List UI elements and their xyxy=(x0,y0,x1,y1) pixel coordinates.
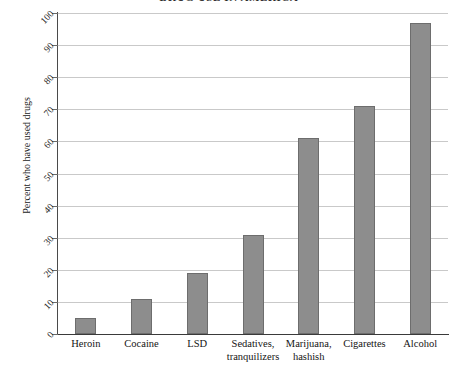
y-axis-tick-label: 70 xyxy=(31,105,56,131)
y-axis-tick-label: 40 xyxy=(31,201,56,227)
y-axis-tick-label: 30 xyxy=(31,233,56,259)
category-label-line-2: tranquilizers xyxy=(221,350,285,363)
x-axis-category-label: Sedatives,tranquilizers xyxy=(221,337,285,363)
bar-chart: DRUG USE IN AMERICA Percent who have use… xyxy=(0,0,458,365)
category-label-line-1: Heroin xyxy=(71,338,100,349)
x-axis-line xyxy=(57,334,449,335)
y-axis-tick-label: 20 xyxy=(31,265,56,291)
category-label-line-1: Sedatives, xyxy=(232,338,275,349)
y-axis-tick-label: 60 xyxy=(31,137,56,163)
category-label-line-2: hashish xyxy=(277,350,341,363)
bar xyxy=(75,318,96,334)
bar xyxy=(243,235,264,335)
x-axis-category-label: Marijuana,hashish xyxy=(277,337,341,363)
x-axis-category-label: Alcohol xyxy=(388,337,452,350)
y-axis-tick-label: 0 xyxy=(31,330,56,356)
x-axis-category-label: Heroin xyxy=(54,337,118,350)
y-axis-tick-label: 100 xyxy=(31,9,56,35)
category-label-line-1: Marijuana, xyxy=(286,338,332,349)
chart-title: DRUG USE IN AMERICA xyxy=(0,0,458,3)
bar xyxy=(131,299,152,334)
category-label-line-1: Cigarettes xyxy=(343,338,386,349)
x-axis-category-label: Cocaine xyxy=(110,337,174,350)
y-axis-tick-label: 90 xyxy=(31,41,56,67)
bar xyxy=(410,23,431,334)
bars-layer xyxy=(58,13,448,334)
x-axis-category-label: Cigarettes xyxy=(333,337,397,350)
y-axis-tick-label: 80 xyxy=(31,73,56,99)
bar xyxy=(354,106,375,334)
y-axis-tick-label: 50 xyxy=(31,169,56,195)
category-label-line-1: LSD xyxy=(187,338,207,349)
category-label-line-1: Alcohol xyxy=(403,338,437,349)
bar xyxy=(298,138,319,334)
bar xyxy=(187,273,208,334)
y-axis-tick-label: 10 xyxy=(31,297,56,323)
x-axis-category-labels: HeroinCocaineLSDSedatives,tranquilizersM… xyxy=(58,337,448,365)
category-label-line-1: Cocaine xyxy=(124,338,158,349)
x-axis-category-label: LSD xyxy=(165,337,229,350)
